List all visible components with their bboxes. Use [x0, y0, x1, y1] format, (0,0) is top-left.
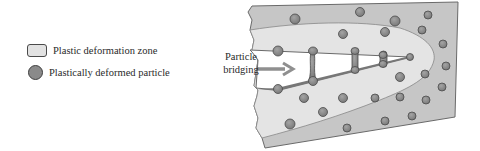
annotation-line-1: Particle — [215, 51, 267, 64]
particle-bridging-label: Particle bridging — [215, 51, 267, 76]
annotation-line-2: bridging — [215, 64, 267, 77]
